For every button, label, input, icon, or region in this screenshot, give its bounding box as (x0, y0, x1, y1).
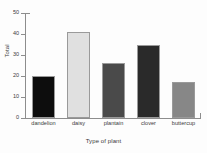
y-axis-tick-label: 10 (0, 94, 19, 100)
bar-category-label: buttercup (166, 121, 201, 127)
x-axis-title: Type of plant (0, 138, 207, 144)
y-axis-title: Total (4, 31, 10, 71)
y-axis-tick-label: 20 (0, 73, 19, 79)
bar (102, 63, 125, 118)
bar (172, 82, 195, 118)
y-axis-tick (21, 118, 26, 119)
y-axis-tick-label: 30 (0, 52, 19, 58)
bar-category-label: daisy (61, 121, 96, 127)
plot-area (26, 13, 201, 118)
bar-chart: Total 01020304050 dandeliondaisyplantain… (0, 0, 207, 153)
bar-category-label: plantain (96, 121, 131, 127)
bar (137, 45, 160, 119)
bar-category-label: dandelion (26, 121, 61, 127)
y-axis-tick-label: 50 (0, 10, 19, 16)
x-axis-line (25, 118, 201, 119)
bar-category-label: clover (131, 121, 166, 127)
y-axis-tick-label: 40 (0, 31, 19, 37)
y-axis-tick-label: 0 (0, 115, 19, 121)
bar (67, 32, 90, 118)
bar (32, 76, 55, 118)
